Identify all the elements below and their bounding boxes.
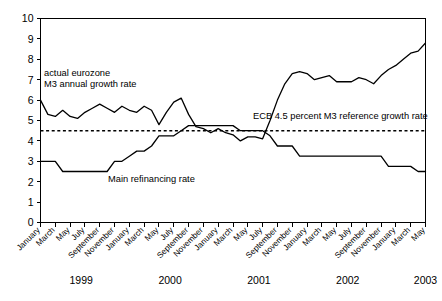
y-tick-label-2: 2 xyxy=(28,176,34,188)
x-tick-label-20: May xyxy=(321,225,339,243)
x-tick-label-2: May xyxy=(54,225,72,243)
year-label-2003: 2003 xyxy=(414,274,438,286)
y-tick-label-7: 7 xyxy=(28,74,34,86)
y-tick-label-9: 9 xyxy=(28,33,34,45)
ecb-m3-growth-chart: 012345678910JanuaryMarchMayJulySeptember… xyxy=(0,0,442,301)
year-label-2001: 2001 xyxy=(247,274,271,286)
y-tick-label-3: 3 xyxy=(28,155,34,167)
y-tick-label-1: 1 xyxy=(28,196,34,208)
x-tick-label-26: May xyxy=(410,225,428,243)
y-tick-label-8: 8 xyxy=(28,53,34,65)
year-label-2002: 2002 xyxy=(336,274,360,286)
chart-canvas: 012345678910JanuaryMarchMayJulySeptember… xyxy=(0,0,442,301)
refi-series-annotation-line-0: Main refinancing rate xyxy=(108,174,195,184)
reference-rate-annotation-line-0: ECB 4.5 percent M3 reference growth rate xyxy=(253,111,428,121)
m3-series-annotation-line-1: M3 annual growth rate xyxy=(44,79,137,89)
main-refinancing-rate-line xyxy=(41,126,426,172)
year-label-1999: 1999 xyxy=(70,274,94,286)
y-tick-label-4: 4 xyxy=(28,135,34,147)
m3-series-annotation-line-0: actual eurozone xyxy=(44,68,110,78)
y-tick-label-0: 0 xyxy=(28,216,34,228)
y-tick-label-6: 6 xyxy=(28,94,34,106)
x-tick-label-8: May xyxy=(143,225,161,243)
y-tick-label-5: 5 xyxy=(28,114,34,126)
year-label-2000: 2000 xyxy=(158,274,182,286)
y-tick-label-10: 10 xyxy=(22,12,34,24)
x-tick-label-14: May xyxy=(232,225,250,243)
